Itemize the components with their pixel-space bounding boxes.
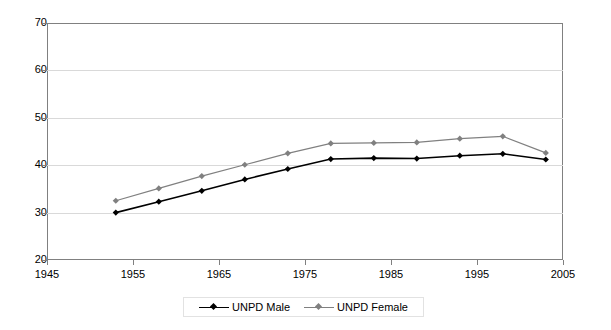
x-axis-tick-mark [133,260,134,265]
x-axis-tick-mark [391,260,392,265]
x-axis-tick-label: 1955 [103,268,163,280]
series-line [116,154,546,213]
data-point-marker [543,156,549,162]
data-point-marker [371,140,377,146]
legend-item: UNPD Male [199,301,290,313]
x-axis-tick-label: 1975 [275,268,335,280]
legend-marker-icon [199,302,229,313]
data-point-marker [414,139,420,145]
data-point-marker [371,155,377,161]
x-axis: 1945195519651975198519952005 [0,260,611,300]
x-axis-tick-mark [305,260,306,265]
data-point-marker [113,198,119,204]
data-point-marker [156,185,162,191]
plot-area [47,23,563,260]
data-point-marker [199,188,205,194]
x-axis-tick-label: 1965 [189,268,249,280]
legend-item: UNPD Female [304,301,408,313]
x-axis-tick-mark [563,260,564,265]
x-axis-tick-label: 1945 [17,268,77,280]
legend-label: UNPD Male [232,301,290,313]
data-point-marker [285,150,291,156]
data-point-marker [242,176,248,182]
data-point-marker [113,210,119,216]
x-axis-tick-label: 2005 [533,268,593,280]
x-axis-tick-mark [219,260,220,265]
data-point-marker [543,150,549,156]
data-point-marker [285,166,291,172]
data-point-marker [242,162,248,168]
data-point-marker [328,140,334,146]
data-series-layer [47,23,563,260]
y-axis-tick-label: 70 [7,17,47,28]
legend-label: UNPD Female [337,301,408,313]
x-axis-tick-label: 1985 [361,268,421,280]
legend-marker-icon [304,302,334,313]
y-axis-tick-label: 60 [7,64,47,75]
legend-diamond-icon [209,303,216,310]
data-point-marker [457,136,463,142]
series-female [113,133,549,204]
data-point-marker [199,173,205,179]
data-point-marker [457,153,463,159]
x-axis-tick-label: 1995 [447,268,507,280]
data-point-marker [414,155,420,161]
x-axis-tick-mark [47,260,48,265]
legend-diamond-icon [315,303,322,310]
chart-legend: UNPD MaleUNPD Female [183,297,424,317]
data-point-marker [500,133,506,139]
data-point-marker [156,199,162,205]
data-point-marker [500,151,506,157]
x-axis-tick-mark [477,260,478,265]
line-chart: 203040506070 194519551965197519851995200… [0,0,611,330]
data-point-marker [328,156,334,162]
y-axis-tick-label: 40 [7,159,47,170]
y-axis-tick-label: 30 [7,207,47,218]
y-axis-tick-label: 50 [7,112,47,123]
